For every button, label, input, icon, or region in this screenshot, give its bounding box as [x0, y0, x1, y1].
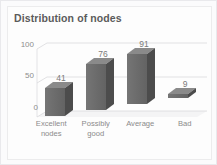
y-tick-label-100: 100	[12, 40, 34, 49]
chart-title: Distribution of nodes	[14, 12, 122, 24]
value-label-excellent-nodes: 41	[56, 73, 65, 83]
y-tick-label-0: 0	[16, 103, 38, 112]
value-label-possibly-good: 76	[98, 49, 107, 59]
category-label-possibly-good: Possibly good	[74, 119, 119, 149]
bar-average	[127, 48, 155, 104]
category-axis: Excellent nodes Possibly good Average Ba…	[29, 119, 207, 149]
bar-bad	[168, 88, 196, 98]
chart-frame: Distribution of nodes	[0, 0, 217, 165]
y-tick-label-50: 50	[12, 71, 34, 80]
bar-excellent-nodes	[45, 82, 73, 116]
category-label-average: Average	[118, 119, 163, 149]
category-label-excellent-nodes: Excellent nodes	[29, 119, 74, 149]
value-label-average: 91	[139, 39, 148, 49]
category-label-bad: Bad	[163, 119, 208, 149]
value-label-bad: 9	[183, 79, 188, 89]
bar-possibly-good	[86, 58, 114, 110]
plot-area: 100 50 0 41 76 91 9 Excellent nodes Poss…	[11, 31, 208, 159]
